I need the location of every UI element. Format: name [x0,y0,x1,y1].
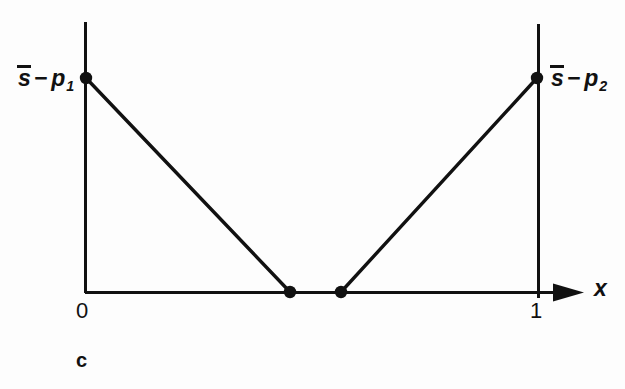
s-bar-symbol: s [551,66,564,90]
minus-operator: − [564,65,584,91]
data-point-left-top [80,72,92,84]
label-right-endpoint: s−p2 [551,66,608,93]
series-line-left [86,78,290,292]
x-axis-arrowhead [553,284,584,302]
minus-operator: − [31,65,51,91]
data-point-right-bottom [335,286,347,298]
series-line-right [341,78,537,292]
label-left-endpoint: s−p1 [18,66,75,93]
plot-canvas [0,0,625,389]
x-axis-tick-label-0: 0 [76,300,88,322]
data-point-left-bottom [284,286,296,298]
data-point-right-top [531,72,543,84]
figure-panel-c: s−p1 s−p2 0 1 x c [0,0,625,389]
p-subscript: 2 [599,78,608,94]
p-symbol: p [584,65,599,91]
s-bar-symbol: s [18,66,31,90]
x-axis-tick-label-1: 1 [530,300,542,322]
p-subscript: 1 [66,78,75,94]
x-axis-name-label: x [594,277,607,300]
panel-letter-label: c [76,350,87,370]
p-symbol: p [51,65,66,91]
